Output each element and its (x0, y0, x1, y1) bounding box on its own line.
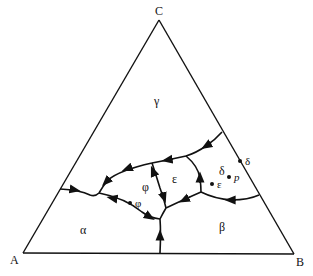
phi-point-dot (128, 201, 132, 205)
edge-ab (23, 253, 294, 254)
region-label-epsilon: ε (172, 172, 177, 186)
boundary-phi-epsilon (152, 163, 166, 208)
edge-cb (159, 20, 294, 254)
region-label-gamma: γ (153, 94, 160, 108)
p-point-label: p (233, 171, 240, 183)
boundary-curves (60, 132, 259, 253)
phi-point-label: φ (135, 197, 141, 209)
arrow-icon (112, 198, 117, 199)
vertex-label-a: A (10, 253, 19, 267)
arrow-icon (106, 178, 110, 182)
region-label-phi: φ (142, 180, 149, 194)
boundary-alpha-phi (99, 193, 160, 219)
flow-arrows (70, 143, 236, 240)
boundary-epsilon-delta (186, 156, 201, 192)
arrow-icon (167, 159, 173, 160)
boundary-epsilon-beta (166, 192, 201, 208)
p-point-dot (227, 175, 231, 179)
boundary-phi-beta (160, 208, 166, 219)
vertex-label-c: C (155, 4, 163, 18)
boundary-gamma-delta (186, 132, 222, 156)
epsilon-point-dot (210, 182, 214, 186)
delta-edge-point-label: δ (245, 155, 250, 167)
region-label-alpha: α (80, 223, 87, 237)
ternary-phase-diagram: C A B (0, 0, 313, 276)
boundary-delta-beta (201, 192, 259, 200)
epsilon-point-label: ε (217, 178, 222, 190)
delta-edge-point-dot (238, 159, 242, 163)
region-label-beta: β (219, 220, 225, 234)
vertex-label-b: B (296, 255, 304, 269)
arrow-icon (70, 189, 75, 190)
region-label-delta: δ (219, 164, 225, 178)
boundary-gamma-alpha (60, 189, 99, 196)
edge-ac (23, 20, 159, 253)
